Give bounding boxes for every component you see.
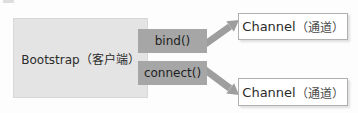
connect-node: connect() [138,61,207,85]
channel-node-top: Channel （通道） [238,13,348,40]
channel-bottom-label-zh: （通道） [296,84,344,101]
channel-node-bottom: Channel （通道） [238,78,348,106]
channel-bottom-label-en: Channel [242,85,295,100]
connect-label: connect() [144,66,201,80]
bind-label: bind() [155,34,191,48]
bind-arrow [204,20,239,45]
connect-arrow [204,69,239,95]
diagram-canvas: Bootstrap（客户端） bind() connect() Channel … [0,0,358,113]
bind-node: bind() [138,29,207,53]
channel-top-label-en: Channel [242,19,295,34]
channel-top-label-zh: （通道） [296,18,344,35]
